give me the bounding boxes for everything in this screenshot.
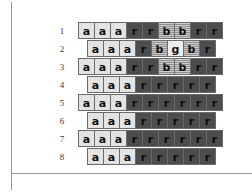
lattice-cell-g[interactable]: g	[167, 40, 184, 57]
lattice-cell-r[interactable]: r	[126, 58, 143, 75]
lattice-cell-a[interactable]: a	[78, 22, 95, 39]
lattice-cell-a[interactable]: a	[78, 58, 95, 75]
lattice-row: 6aaarrrrr	[0, 112, 252, 130]
lattice-cell-r[interactable]: r	[135, 112, 152, 129]
lattice-cell-r[interactable]: r	[126, 130, 143, 147]
row-label: 6	[56, 112, 68, 130]
lattice-cell-r[interactable]: r	[190, 22, 207, 39]
lattice-cell-r[interactable]: r	[167, 148, 184, 165]
lattice-cell-r[interactable]: r	[167, 112, 184, 129]
lattice-row: 3aaarrbbrr	[0, 58, 252, 76]
lattice-cell-a[interactable]: a	[78, 94, 95, 111]
lattice-cell-a[interactable]: a	[103, 40, 120, 57]
row-cells: aaarrbbrr	[78, 58, 222, 76]
lattice-cell-a[interactable]: a	[103, 112, 120, 129]
lattice-cell-b[interactable]: b	[174, 58, 191, 75]
row-cells: aaarrrrr	[87, 148, 215, 166]
page-margin-rule-horizontal	[11, 173, 252, 174]
lattice-cell-a[interactable]: a	[119, 76, 136, 93]
row-label: 4	[56, 76, 68, 94]
row-cells: aaarrbbrr	[78, 22, 222, 40]
lattice-cell-a[interactable]: a	[110, 58, 127, 75]
lattice-cell-r[interactable]: r	[135, 40, 152, 57]
lattice-cell-a[interactable]: a	[119, 148, 136, 165]
row-cells: aaarbgbr	[87, 40, 215, 58]
lattice-cell-a[interactable]: a	[87, 76, 104, 93]
lattice-cell-a[interactable]: a	[94, 22, 111, 39]
lattice-cell-a[interactable]: a	[110, 94, 127, 111]
lattice-cell-r[interactable]: r	[206, 130, 223, 147]
lattice-cell-r[interactable]: r	[142, 130, 159, 147]
lattice-cell-r[interactable]: r	[167, 76, 184, 93]
row-label: 8	[56, 148, 68, 166]
lattice-cell-r[interactable]: r	[142, 22, 159, 39]
lattice-cell-r[interactable]: r	[126, 22, 143, 39]
lattice-cell-a[interactable]: a	[78, 130, 95, 147]
lattice-row: 4aaarrrrr	[0, 76, 252, 94]
row-label: 3	[56, 58, 68, 76]
lattice-cell-a[interactable]: a	[110, 130, 127, 147]
lattice-grid: 1aaarrbbrr2aaarbgbr3aaarrbbrr4aaarrrrr5a…	[0, 22, 252, 166]
lattice-cell-r[interactable]: r	[199, 148, 216, 165]
row-label: 2	[56, 40, 68, 58]
row-cells: aaarrrrrr	[78, 94, 222, 112]
lattice-cell-r[interactable]: r	[158, 94, 175, 111]
lattice-cell-r[interactable]: r	[183, 148, 200, 165]
row-label: 7	[56, 130, 68, 148]
lattice-cell-a[interactable]: a	[94, 130, 111, 147]
row-label: 1	[56, 22, 68, 40]
lattice-cell-r[interactable]: r	[151, 112, 168, 129]
lattice-row: 5aaarrrrrr	[0, 94, 252, 112]
lattice-cell-r[interactable]: r	[151, 76, 168, 93]
lattice-cell-r[interactable]: r	[158, 130, 175, 147]
lattice-cell-a[interactable]: a	[87, 40, 104, 57]
lattice-cell-r[interactable]: r	[199, 40, 216, 57]
lattice-row: 2aaarbgbr	[0, 40, 252, 58]
row-cells: aaarrrrr	[87, 76, 215, 94]
lattice-cell-r[interactable]: r	[174, 130, 191, 147]
row-label: 5	[56, 94, 68, 112]
lattice-cell-a[interactable]: a	[94, 94, 111, 111]
lattice-row: 1aaarrbbrr	[0, 22, 252, 40]
lattice-cell-r[interactable]: r	[151, 148, 168, 165]
lattice-cell-a[interactable]: a	[119, 112, 136, 129]
lattice-cell-r[interactable]: r	[126, 94, 143, 111]
lattice-cell-a[interactable]: a	[94, 58, 111, 75]
lattice-cell-a[interactable]: a	[110, 22, 127, 39]
lattice-cell-b[interactable]: b	[183, 40, 200, 57]
lattice-row: 7aaarrrrrr	[0, 130, 252, 148]
lattice-cell-r[interactable]: r	[206, 22, 223, 39]
lattice-cell-r[interactable]: r	[142, 94, 159, 111]
lattice-cell-a[interactable]: a	[87, 148, 104, 165]
lattice-row: 8aaarrrrr	[0, 148, 252, 166]
lattice-cell-r[interactable]: r	[190, 94, 207, 111]
lattice-cell-r[interactable]: r	[190, 58, 207, 75]
lattice-cell-r[interactable]: r	[183, 112, 200, 129]
lattice-cell-r[interactable]: r	[199, 76, 216, 93]
row-cells: aaarrrrr	[87, 112, 215, 130]
lattice-cell-r[interactable]: r	[142, 58, 159, 75]
lattice-cell-a[interactable]: a	[87, 112, 104, 129]
row-cells: aaarrrrrr	[78, 130, 222, 148]
lattice-cell-a[interactable]: a	[103, 76, 120, 93]
lattice-cell-r[interactable]: r	[174, 94, 191, 111]
lattice-cell-r[interactable]: r	[183, 76, 200, 93]
lattice-cell-b[interactable]: b	[151, 40, 168, 57]
lattice-cell-r[interactable]: r	[199, 112, 216, 129]
lattice-cell-b[interactable]: b	[158, 58, 175, 75]
lattice-cell-r[interactable]: r	[135, 76, 152, 93]
lattice-cell-b[interactable]: b	[158, 22, 175, 39]
lattice-cell-r[interactable]: r	[190, 130, 207, 147]
lattice-cell-r[interactable]: r	[206, 94, 223, 111]
lattice-cell-a[interactable]: a	[119, 40, 136, 57]
lattice-cell-r[interactable]: r	[135, 148, 152, 165]
lattice-cell-b[interactable]: b	[174, 22, 191, 39]
lattice-cell-a[interactable]: a	[103, 148, 120, 165]
lattice-cell-r[interactable]: r	[206, 58, 223, 75]
